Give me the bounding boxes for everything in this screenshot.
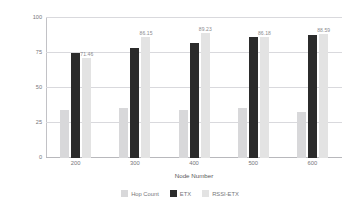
legend-item[interactable]: Hop Count bbox=[121, 190, 159, 197]
bar-chart: Nodes with parent change(%) 0255075100 7… bbox=[0, 0, 360, 210]
y-axis-tick-label: 50 bbox=[36, 84, 42, 90]
bar bbox=[308, 35, 317, 158]
x-axis-tick-label: 500 bbox=[224, 160, 283, 166]
bar bbox=[179, 110, 188, 158]
bar-group: 86.15 bbox=[105, 18, 164, 158]
y-axis-tick-label: 100 bbox=[33, 14, 42, 20]
bar bbox=[238, 108, 247, 158]
plot-area: 0255075100 71.4686.1589.2386.1888.59 bbox=[46, 18, 342, 158]
bar bbox=[297, 112, 306, 158]
x-axis-tick-label: 600 bbox=[283, 160, 342, 166]
legend-label: Hop Count bbox=[131, 191, 159, 197]
bar: 86.15 bbox=[141, 37, 150, 158]
y-axis-tick-label: 75 bbox=[36, 49, 42, 55]
legend-swatch-icon bbox=[121, 190, 128, 197]
bar: 89.23 bbox=[201, 33, 210, 158]
bar-group: 71.46 bbox=[46, 18, 105, 158]
x-axis-tick-label: 200 bbox=[46, 160, 105, 166]
bar bbox=[71, 53, 80, 158]
legend-item[interactable]: ETX bbox=[170, 190, 191, 197]
legend-item[interactable]: RSSI-ETX bbox=[202, 190, 239, 197]
bars-layer: 71.4686.1589.2386.1888.59 bbox=[46, 18, 342, 158]
legend-swatch-icon bbox=[170, 190, 177, 197]
x-axis-title: Node Number bbox=[46, 172, 342, 179]
bar-group: 89.23 bbox=[164, 18, 223, 158]
x-axis-tick-label: 300 bbox=[105, 160, 164, 166]
bar bbox=[190, 43, 199, 159]
bar bbox=[249, 37, 258, 158]
bar: 71.46 bbox=[82, 58, 91, 158]
bar-value-label: 71.46 bbox=[80, 51, 93, 57]
bar-value-label: 86.18 bbox=[258, 30, 271, 36]
legend-label: ETX bbox=[180, 191, 191, 197]
y-axis-tick-label: 25 bbox=[36, 119, 42, 125]
y-axis-tick-label: 0 bbox=[39, 154, 42, 160]
bar: 88.59 bbox=[319, 34, 328, 158]
bar bbox=[130, 48, 139, 158]
bar-group: 88.59 bbox=[283, 18, 342, 158]
chart-legend: Hop CountETXRSSI-ETX bbox=[0, 190, 360, 197]
x-axis-tick-label: 400 bbox=[164, 160, 223, 166]
legend-swatch-icon bbox=[202, 190, 209, 197]
bar bbox=[60, 110, 69, 158]
bar: 86.18 bbox=[260, 37, 269, 158]
bar-value-label: 89.23 bbox=[199, 26, 212, 32]
bar-group: 86.18 bbox=[224, 18, 283, 158]
bar-value-label: 86.15 bbox=[140, 30, 153, 36]
x-axis-tick-labels: 200300400500600 bbox=[46, 160, 342, 166]
bar bbox=[119, 108, 128, 158]
bar-value-label: 88.59 bbox=[317, 27, 330, 33]
legend-label: RSSI-ETX bbox=[212, 191, 239, 197]
